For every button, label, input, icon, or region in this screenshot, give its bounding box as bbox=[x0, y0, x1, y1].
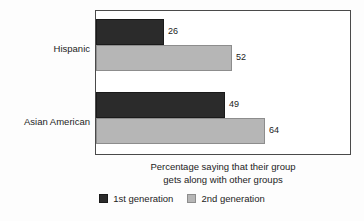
gray-square-swatch-icon bbox=[187, 194, 196, 203]
plot-area: 26 52 49 64 bbox=[95, 10, 351, 155]
bar-value-hispanic-2nd-generation: 52 bbox=[236, 53, 246, 62]
bar-hispanic-2nd-generation bbox=[96, 45, 232, 71]
x-axis-caption: Percentage saying that their group gets … bbox=[95, 160, 351, 186]
bar-asian-american-2nd-generation bbox=[96, 118, 265, 144]
bar-chart-figure: Hispanic Asian American 26 52 49 64 Perc… bbox=[0, 0, 364, 221]
x-axis-caption-line-2: gets along with other groups bbox=[95, 173, 351, 186]
legend-label-2nd-generation: 2nd generation bbox=[201, 194, 264, 204]
bar-asian-american-1st-generation bbox=[96, 92, 225, 118]
category-label-hispanic: Hispanic bbox=[54, 44, 90, 54]
bar-value-asian-american-2nd-generation: 64 bbox=[269, 126, 279, 135]
chart-legend: 1st generation 2nd generation bbox=[0, 194, 364, 204]
bar-value-asian-american-1st-generation: 49 bbox=[229, 100, 239, 109]
bar-hispanic-1st-generation bbox=[96, 19, 164, 45]
dark-square-swatch-icon bbox=[99, 194, 108, 203]
legend-item-1st-generation: 1st generation bbox=[99, 194, 173, 204]
legend-label-1st-generation: 1st generation bbox=[113, 194, 173, 204]
x-axis-caption-line-1: Percentage saying that their group bbox=[95, 160, 351, 173]
legend-item-2nd-generation: 2nd generation bbox=[187, 194, 264, 204]
bar-value-hispanic-1st-generation: 26 bbox=[168, 27, 178, 36]
category-label-asian-american: Asian American bbox=[24, 117, 90, 127]
